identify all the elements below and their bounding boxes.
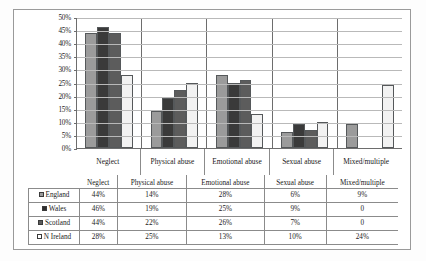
table-cell: 19%	[117, 203, 186, 217]
table-row-label: N Ireland	[29, 231, 80, 245]
table-cell: 28%	[80, 231, 118, 245]
x-axis-category-label: Emotional abuse	[205, 149, 270, 175]
chart-plot-area: 50%45%40%35%30%25%20%15%10%5%0%	[48, 18, 404, 168]
table-cell: 14%	[117, 189, 186, 203]
x-axis-category-label: Sexual abuse	[270, 149, 335, 175]
bar-england	[216, 75, 228, 148]
x-axis-category-label: Neglect	[76, 149, 141, 175]
bar-england	[85, 33, 97, 148]
table-row-label: Scotland	[29, 217, 80, 231]
table-cell: 44%	[80, 217, 118, 231]
table-cell: 0	[326, 217, 398, 231]
y-axis-tick-mark	[74, 84, 77, 85]
legend-label: Wales	[49, 205, 66, 213]
chart-frame: 50%45%40%35%30%25%20%15%10%5%0% NeglectP…	[13, 9, 411, 250]
bar-scotland	[174, 90, 186, 148]
table-cell: 25%	[187, 203, 265, 217]
y-axis-tick-label: 40%	[58, 41, 71, 48]
table-cell: 6%	[264, 189, 326, 203]
table-row: England44%14%28%6%9%	[29, 189, 399, 203]
bar-scotland	[240, 80, 252, 148]
y-axis-tick-label: 0%	[62, 146, 71, 153]
gridline	[77, 97, 402, 98]
y-axis-tick-mark	[74, 57, 77, 58]
table-header-row: NeglectPhysical abuseEmotional abuseSexu…	[29, 175, 399, 189]
x-axis-category-label: Physical abuse	[141, 149, 206, 175]
legend-label: N Ireland	[44, 233, 71, 241]
y-axis-tick-label: 20%	[58, 93, 71, 100]
table-row: Wales46%19%25%9%0	[29, 203, 399, 217]
y-axis-tick-mark	[74, 18, 77, 19]
table-row-label: Wales	[29, 203, 80, 217]
y-axis: 50%45%40%35%30%25%20%15%10%5%0%	[48, 18, 74, 149]
gridline	[77, 136, 402, 137]
y-axis-tick-mark	[74, 110, 77, 111]
y-axis-tick-label: 10%	[58, 119, 71, 126]
gridline	[77, 110, 402, 111]
table-column-header: Physical abuse	[117, 175, 186, 189]
gridline	[77, 84, 402, 85]
bar-scotland	[109, 33, 121, 148]
table-body: England44%14%28%6%9%Wales46%19%25%9%0Sco…	[29, 189, 399, 245]
table-cell: 9%	[326, 189, 398, 203]
table-cell: 26%	[187, 217, 265, 231]
table-cell: 44%	[80, 189, 118, 203]
y-axis-tick-label: 5%	[62, 132, 71, 139]
table-row: Scotland44%22%26%7%0	[29, 217, 399, 231]
table-column-header: Mixed/multiple	[326, 175, 398, 189]
table-row: N Ireland28%25%13%10%24%	[29, 231, 399, 245]
table-head: NeglectPhysical abuseEmotional abuseSexu…	[29, 175, 399, 189]
y-axis-tick-label: 25%	[58, 80, 71, 87]
y-axis-tick-label: 50%	[58, 15, 71, 22]
x-axis-category-labels: NeglectPhysical abuseEmotional abuseSexu…	[76, 149, 398, 175]
y-axis-tick-label: 15%	[58, 106, 71, 113]
table-column-header: Sexual abuse	[264, 175, 326, 189]
y-axis-tick-mark	[74, 97, 77, 98]
table-column-header: Emotional abuse	[187, 175, 265, 189]
table-cell: 46%	[80, 203, 118, 217]
gridline	[77, 123, 402, 124]
legend-swatch-icon	[39, 192, 44, 197]
gridline	[77, 18, 402, 19]
bar-n-ireland	[121, 75, 133, 148]
table-cell: 9%	[264, 203, 326, 217]
table-cell: 7%	[264, 217, 326, 231]
y-axis-tick-mark	[74, 44, 77, 45]
bar-wales	[228, 83, 240, 149]
bar-n-ireland	[251, 114, 263, 148]
gridline	[77, 31, 402, 32]
bar-n-ireland	[382, 85, 394, 148]
y-axis-tick-mark	[74, 136, 77, 137]
table-cell: 25%	[117, 231, 186, 245]
bar-n-ireland	[186, 83, 198, 149]
y-axis-tick-label: 45%	[58, 28, 71, 35]
x-axis-category-label: Mixed/multiple	[334, 149, 398, 175]
table-row-label: England	[29, 189, 80, 203]
page-background: 50%45%40%35%30%25%20%15%10%5%0% NeglectP…	[0, 0, 426, 261]
table-corner-cell	[29, 175, 80, 189]
bar-england	[151, 111, 163, 148]
bar-england	[281, 132, 293, 148]
y-axis-tick-label: 35%	[58, 54, 71, 61]
chart-data-table: NeglectPhysical abuseEmotional abuseSexu…	[28, 175, 398, 245]
gridline	[77, 70, 402, 71]
legend-label: Scotland	[45, 219, 70, 227]
y-axis-tick-mark	[74, 123, 77, 124]
legend-swatch-icon	[37, 234, 42, 239]
gridline	[77, 44, 402, 45]
table-cell: 13%	[187, 231, 265, 245]
plot-grid	[76, 18, 402, 149]
legend-swatch-icon	[42, 206, 47, 211]
y-axis-tick-label: 30%	[58, 67, 71, 74]
y-axis-tick-mark	[74, 70, 77, 71]
bar-scotland	[305, 130, 317, 148]
legend-label: England	[46, 191, 70, 199]
table-cell: 0	[326, 203, 398, 217]
legend-swatch-icon	[38, 220, 43, 225]
bar-wales	[97, 27, 109, 148]
table-cell: 24%	[326, 231, 398, 245]
table-cell: 28%	[187, 189, 265, 203]
table-cell: 10%	[264, 231, 326, 245]
y-axis-tick-mark	[74, 31, 77, 32]
table-cell: 22%	[117, 217, 186, 231]
